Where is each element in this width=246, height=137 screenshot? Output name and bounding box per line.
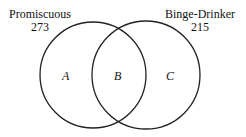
region-a: A	[62, 69, 69, 84]
set-count: 273	[8, 21, 72, 34]
promiscuous-circle	[40, 22, 146, 128]
region-b: B	[114, 69, 121, 84]
set-label-promiscuous: Promiscuous 273	[8, 8, 72, 34]
set-count: 215	[163, 21, 237, 34]
region-c: C	[166, 69, 174, 84]
set-label-binge-drinker: Binge-Drinker 215	[163, 8, 237, 34]
